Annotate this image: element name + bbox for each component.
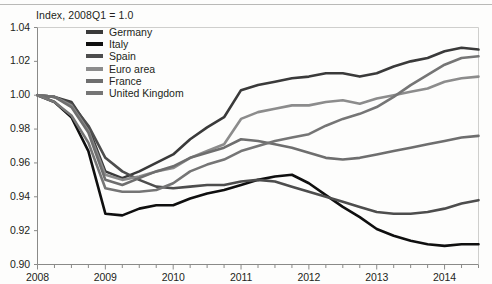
legend-item-italy[interactable]: Italy <box>86 38 184 50</box>
legend-item-united-kingdom[interactable]: United Kingdom <box>86 87 184 99</box>
legend-label: France <box>109 75 142 87</box>
x-tick-label: 2014 <box>425 271 465 283</box>
legend-label: Euro area <box>109 63 155 75</box>
chart-legend: GermanyItalySpainEuro areaFranceUnited K… <box>86 26 184 99</box>
legend-label: United Kingdom <box>109 87 184 99</box>
legend-swatch-icon <box>86 54 103 58</box>
line-chart-plot <box>0 0 492 284</box>
x-tick-label: 2009 <box>85 271 125 283</box>
legend-swatch-icon <box>86 42 103 46</box>
series-line-france <box>38 95 479 185</box>
legend-swatch-icon <box>86 67 103 71</box>
y-tick-label: 1.02 <box>0 54 30 66</box>
legend-label: Spain <box>109 50 136 62</box>
x-tick-label: 2013 <box>357 271 397 283</box>
y-tick-label: 0.90 <box>0 258 30 270</box>
legend-item-spain[interactable]: Spain <box>86 50 184 62</box>
y-tick-label: 0.92 <box>0 224 30 236</box>
y-tick-label: 0.98 <box>0 122 30 134</box>
x-tick-label: 2010 <box>153 271 193 283</box>
legend-label: Italy <box>109 38 128 50</box>
y-tick-label: 1.00 <box>0 88 30 100</box>
legend-item-germany[interactable]: Germany <box>86 26 184 38</box>
legend-swatch-icon <box>86 91 103 95</box>
y-tick-label: 1.04 <box>0 21 30 33</box>
y-tick-label: 0.96 <box>0 156 30 168</box>
y-tick-label: 0.94 <box>0 190 30 202</box>
x-tick-label: 2012 <box>289 271 329 283</box>
legend-swatch-icon <box>86 30 103 34</box>
legend-item-france[interactable]: France <box>86 75 184 87</box>
legend-item-euro-area[interactable]: Euro area <box>86 63 184 75</box>
x-tick-label: 2008 <box>18 271 58 283</box>
x-tick-label: 2011 <box>221 271 261 283</box>
legend-swatch-icon <box>86 79 103 83</box>
legend-label: Germany <box>109 26 152 38</box>
chart-figure: Index, 2008Q1 = 1.0 1.041.021.000.980.96… <box>0 0 492 284</box>
